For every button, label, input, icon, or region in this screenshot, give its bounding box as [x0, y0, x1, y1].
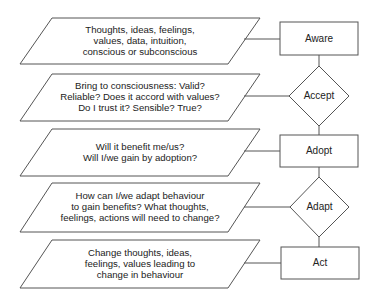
node-accept-label: Accept [289, 90, 349, 102]
node-adopt-label: Adopt [280, 145, 358, 157]
node-act-label: Act [281, 257, 359, 269]
input-text-5: Change thoughts, ideas, feelings, values… [40, 247, 240, 280]
input-text-3: Will it benefit me/us? Will I/we gain by… [40, 141, 240, 163]
input-text-2: Bring to consciousness: Valid? Reliable?… [40, 80, 240, 113]
node-aware-label: Aware [280, 33, 358, 45]
input-text-1: Thoughts, ideas, feelings, values, data,… [40, 24, 240, 57]
input-text-4: How can I/we adapt behaviour to gain ben… [40, 190, 240, 223]
node-adapt-label: Adapt [290, 201, 349, 213]
